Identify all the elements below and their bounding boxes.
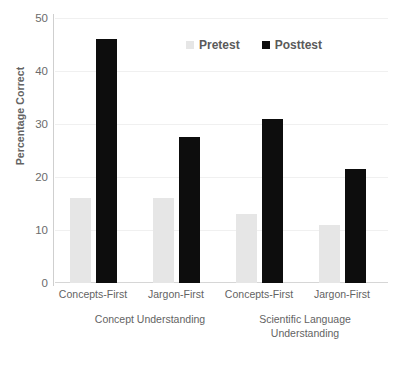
y-axis-tick-label: 40 [14,65,48,77]
y-axis-tick-label: 50 [14,12,48,24]
bar-posttest [262,119,283,283]
y-axis-tick-label: 10 [14,224,48,236]
y-axis-tick-labels: 01020304050 [8,18,48,283]
bar-pretest [319,225,340,283]
square-swatch-light [186,41,194,49]
bar-pretest [70,198,91,283]
bar-posttest [96,39,117,283]
y-axis-tick-label: 30 [14,118,48,130]
bar-pretest [236,214,257,283]
legend-label: Posttest [275,38,322,52]
legend-item[interactable]: Pretest [186,38,240,52]
x-axis-group-label: Scientific Language Understanding [245,312,365,340]
chart-legend: PretestPosttest [186,38,322,52]
y-axis-tick-label: 0 [14,277,48,289]
x-axis-category-labels: Concepts-FirstJargon-FirstConcepts-First… [55,288,388,308]
bar-chart: Percentage Correct 01020304050 Concepts-… [0,0,396,366]
square-swatch-dark [262,41,270,49]
bar-posttest [345,169,366,283]
y-axis-line [53,14,54,286]
x-axis-group-labels: Concept UnderstandingScientific Language… [40,312,390,362]
x-axis-category-label: Jargon-First [148,288,204,300]
bar-posttest [179,137,200,283]
y-axis-tick-label: 20 [14,171,48,183]
x-axis-group-label: Concept Understanding [60,312,240,326]
plot-area [55,18,388,283]
legend-label: Pretest [199,38,240,52]
bar-pretest [153,198,174,283]
legend-item[interactable]: Posttest [262,38,322,52]
x-axis-category-label: Concepts-First [225,288,293,300]
x-axis-category-label: Concepts-First [59,288,127,300]
bars-layer [55,18,388,283]
x-axis-category-label: Jargon-First [314,288,370,300]
